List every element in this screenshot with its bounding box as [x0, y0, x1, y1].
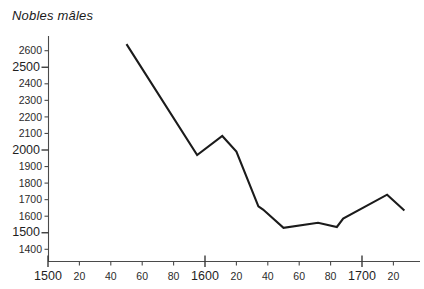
x-tick-label: 80 — [168, 270, 180, 282]
x-tick-label: 1700 — [348, 269, 376, 283]
y-tick-label: 2500 — [12, 60, 40, 74]
y-axis: 2600250024002300220021002000190018001700… — [12, 36, 48, 262]
y-tick-label: 2100 — [19, 127, 43, 139]
y-tick-group: 2600250024002300220021002000190018001700… — [12, 44, 48, 255]
x-tick-label: 20 — [388, 270, 400, 282]
y-tick-label: 2600 — [19, 44, 43, 56]
x-tick-label: 1500 — [34, 269, 62, 283]
y-tick-label: 1600 — [19, 210, 43, 222]
y-tick-label: 2200 — [19, 111, 43, 123]
y-tick-label: 1700 — [19, 193, 43, 205]
y-tick-label: 1500 — [12, 225, 40, 239]
data-series-group — [127, 44, 405, 228]
y-tick-label: 1400 — [19, 243, 43, 255]
x-tick-label: 60 — [136, 270, 148, 282]
chart-page: Nobles mâles 260025002400230022002100200… — [0, 0, 424, 289]
y-tick-label: 1800 — [19, 177, 43, 189]
y-tick-label: 2000 — [12, 143, 40, 157]
x-tick-label: 20 — [74, 270, 86, 282]
x-tick-label: 40 — [105, 270, 117, 282]
x-axis: 150020406080160020406080170020 — [34, 256, 420, 284]
x-tick-group: 150020406080160020406080170020 — [34, 256, 399, 284]
x-tick-label: 80 — [325, 270, 337, 282]
y-tick-label: 2300 — [19, 94, 43, 106]
y-tick-label: 1900 — [19, 160, 43, 172]
x-tick-label: 60 — [293, 270, 305, 282]
x-tick-label: 40 — [262, 270, 274, 282]
y-tick-label: 2400 — [19, 77, 43, 89]
series-line-nobles-males — [127, 44, 405, 228]
x-tick-label: 1600 — [191, 269, 219, 283]
x-tick-label: 20 — [231, 270, 243, 282]
line-chart-plot: 2600250024002300220021002000190018001700… — [0, 0, 424, 289]
